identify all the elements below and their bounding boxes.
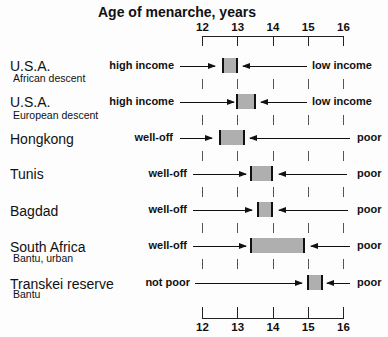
reference-tick [202, 151, 203, 161]
right-arrow-label: low income [312, 95, 372, 108]
reference-tick [237, 79, 238, 89]
left-arrow-icon [327, 283, 350, 284]
right-arrow-icon [195, 283, 302, 284]
arrowhead-icon [242, 63, 250, 69]
top-axis-tick [237, 36, 238, 46]
row-label: Hongkong [10, 131, 74, 147]
reference-tick [343, 187, 344, 197]
right-arrow-label: poor [357, 276, 381, 289]
bottom-axis-tick-label: 12 [196, 321, 209, 334]
reference-tick [202, 115, 203, 125]
chart-title: Age of menarche, years [98, 4, 256, 20]
bottom-axis-tick-label: 13 [231, 321, 244, 334]
arrowhead-icon [295, 280, 303, 286]
left-arrow-label: well-off [149, 239, 188, 252]
right-arrow-label: low income [312, 59, 372, 72]
left-arrow-label: well-off [149, 167, 188, 180]
bottom-axis-tick [273, 307, 274, 318]
reference-tick [202, 187, 203, 197]
reference-tick [343, 223, 344, 233]
reference-tick [308, 223, 309, 233]
bottom-axis-tick [343, 307, 344, 318]
menarche-age-chart: Age of menarche, years 12131415161213141… [0, 0, 388, 337]
row-sublabel: African descent [13, 72, 85, 84]
right-arrow-icon [180, 138, 212, 139]
bottom-axis-tick [237, 307, 238, 318]
right-arrow-icon [180, 102, 234, 103]
left-arrow-icon [311, 246, 350, 247]
reference-tick [202, 259, 203, 269]
right-arrow-icon [180, 66, 215, 67]
bottom-axis-tick-label: 14 [267, 321, 280, 334]
left-arrow-label: high income [109, 59, 174, 72]
top-axis-tick-label: 16 [337, 21, 350, 34]
arrowhead-icon [239, 171, 247, 177]
right-arrow-label: poor [357, 239, 381, 252]
right-arrow-label: poor [357, 203, 381, 216]
reference-tick [343, 259, 344, 269]
reference-tick [308, 259, 309, 269]
right-arrow-label: poor [357, 131, 381, 144]
reference-tick [273, 223, 274, 233]
arrowhead-icon [249, 135, 257, 141]
range-box [219, 130, 246, 145]
bottom-axis-line [202, 318, 344, 319]
range-box [250, 166, 273, 181]
left-arrow-icon [261, 102, 307, 103]
arrowhead-icon [208, 63, 216, 69]
top-axis-tick-label: 15 [302, 21, 315, 34]
top-axis-tick [273, 36, 274, 46]
arrowhead-icon [310, 243, 318, 249]
arrowhead-icon [245, 207, 253, 213]
left-arrow-label: well-off [149, 203, 188, 216]
reference-tick [308, 115, 309, 125]
reference-tick [273, 151, 274, 161]
range-box [222, 58, 238, 73]
top-axis-tick-label: 14 [267, 21, 280, 34]
range-box [257, 202, 273, 217]
left-arrow-icon [279, 174, 347, 175]
reference-tick [237, 151, 238, 161]
left-arrow-label: well-off [135, 131, 174, 144]
reference-tick [273, 259, 274, 269]
row-label: Tunis [10, 166, 44, 182]
reference-tick [237, 187, 238, 197]
row-label: U.S.A. [10, 94, 50, 110]
reference-tick [308, 187, 309, 197]
row-sublabel: Bantu, urban [13, 252, 73, 264]
reference-tick [202, 79, 203, 89]
reference-tick [237, 259, 238, 269]
top-axis-tick [308, 36, 309, 46]
arrowhead-icon [278, 171, 286, 177]
arrowhead-icon [278, 207, 286, 213]
bottom-axis-tick-label: 15 [302, 321, 315, 334]
right-arrow-icon [193, 246, 246, 247]
right-arrow-label: poor [357, 167, 381, 180]
left-arrow-icon [279, 210, 348, 211]
reference-tick [273, 115, 274, 125]
arrowhead-icon [227, 99, 235, 105]
left-arrow-icon [243, 66, 307, 67]
bottom-axis-tick [308, 307, 309, 318]
arrowhead-icon [239, 243, 247, 249]
arrowhead-icon [260, 99, 268, 105]
reference-tick [343, 115, 344, 125]
arrowhead-icon [326, 280, 334, 286]
reference-tick [273, 187, 274, 197]
top-axis-tick-label: 12 [196, 21, 209, 34]
right-arrow-icon [193, 174, 246, 175]
left-arrow-icon [250, 138, 350, 139]
range-box [250, 238, 305, 253]
right-arrow-icon [193, 210, 252, 211]
reference-tick [343, 151, 344, 161]
row-sublabel: Bantu [13, 288, 40, 300]
reference-tick [237, 115, 238, 125]
reference-tick [273, 79, 274, 89]
arrowhead-icon [205, 135, 213, 141]
row-label: Bagdad [10, 203, 58, 219]
left-arrow-label: not poor [145, 276, 190, 289]
left-arrow-label: high income [109, 95, 174, 108]
reference-tick [308, 79, 309, 89]
range-box [307, 275, 323, 290]
range-box [236, 94, 256, 109]
